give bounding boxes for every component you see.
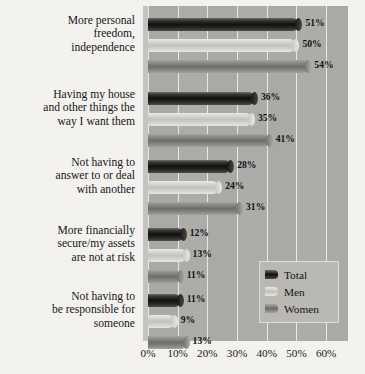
bar-value-label: 36%	[261, 91, 280, 102]
x-tick-40: 40%	[257, 347, 278, 359]
category-label-line: freedom,	[0, 27, 135, 40]
bar-end-cap	[295, 18, 302, 31]
bar-end-cap	[248, 113, 255, 126]
category-label-column: More personalfreedom,independenceHaving …	[0, 0, 140, 341]
category-label-line: with another	[0, 183, 135, 196]
bar-men[interactable]	[148, 181, 219, 194]
bar-value-label: 13%	[193, 248, 212, 259]
x-tick-30: 30%	[227, 347, 248, 359]
bar-value-label: 12%	[190, 227, 209, 238]
gridline-0	[148, 6, 149, 341]
bar-row: 51%	[143, 18, 348, 31]
bar-body	[148, 249, 187, 262]
bar-men[interactable]	[148, 249, 187, 262]
bar-value-label: 11%	[187, 269, 206, 280]
x-axis-tick-labels: 0%10%20%30%40%50%60%	[143, 347, 348, 365]
category-label-line: More personal	[0, 14, 135, 27]
category-label: Having my houseand other things theway I…	[0, 88, 135, 128]
legend-swatch-total	[265, 270, 278, 279]
bar-body	[148, 160, 231, 173]
bar-row: 36%	[143, 92, 348, 105]
category-label-line: independence	[0, 41, 135, 54]
bar-men[interactable]	[148, 315, 175, 328]
bar-value-label: 54%	[314, 59, 333, 70]
bar-body	[148, 39, 296, 52]
bar-end-cap	[171, 315, 178, 328]
bar-end-cap	[304, 60, 311, 73]
bar-body	[148, 202, 240, 215]
bar-value-label: 9%	[181, 314, 195, 325]
bar-end-cap	[236, 202, 243, 215]
x-tick-20: 20%	[197, 347, 218, 359]
bar-total[interactable]	[148, 160, 231, 173]
legend-item-women[interactable]: Women	[265, 300, 333, 317]
bar-row: 24%	[143, 181, 348, 194]
bar-value-label: 50%	[302, 38, 321, 49]
bar-value-label: 41%	[276, 133, 295, 144]
bar-end-cap	[251, 92, 258, 105]
bar-body	[148, 228, 184, 241]
legend-swatch-women	[265, 304, 278, 313]
bar-body	[148, 18, 299, 31]
category-label: Not having toanswer to or dealwith anoth…	[0, 156, 135, 196]
legend-item-total[interactable]: Total	[265, 266, 333, 283]
bar-body	[148, 181, 219, 194]
category-label-line: way I want them	[0, 115, 135, 128]
x-tick-0: 0%	[141, 347, 156, 359]
legend-swatch-men	[265, 287, 278, 296]
category-label-line: Not having to	[0, 290, 135, 303]
bar-men[interactable]	[148, 39, 296, 52]
category-label-line: answer to or deal	[0, 169, 135, 182]
category-label: Not having tobe responsible forsomeone	[0, 290, 135, 330]
bar-body	[148, 270, 181, 283]
bar-row: 35%	[143, 113, 348, 126]
x-tick-50: 50%	[286, 347, 307, 359]
bar-row: 41%	[143, 134, 348, 147]
category-label-line: Not having to	[0, 156, 135, 169]
legend-label: Women	[284, 303, 319, 315]
bar-total[interactable]	[148, 92, 255, 105]
bar-women[interactable]	[148, 134, 270, 147]
bar-row: 50%	[143, 39, 348, 52]
bar-value-label: 31%	[246, 201, 265, 212]
bar-total[interactable]	[148, 294, 181, 307]
bar-value-label: 11%	[187, 293, 206, 304]
category-label-line: are not at risk	[0, 251, 135, 264]
bar-men[interactable]	[148, 113, 252, 126]
legend-item-men[interactable]: Men	[265, 283, 333, 300]
legend-label: Men	[284, 286, 305, 298]
bar-value-label: 28%	[237, 159, 256, 170]
bar-value-label: 51%	[305, 17, 324, 28]
bar-row: 28%	[143, 160, 348, 173]
gridline-20	[207, 6, 208, 341]
bar-body	[148, 113, 252, 126]
bar-end-cap	[292, 39, 299, 52]
bar-total[interactable]	[148, 18, 299, 31]
bar-row: 31%	[143, 202, 348, 215]
bar-end-cap	[266, 134, 273, 147]
bar-end-cap	[183, 249, 190, 262]
bar-chart: More personalfreedom,independenceHaving …	[0, 0, 365, 374]
bar-end-cap	[177, 270, 184, 283]
bar-women[interactable]	[148, 270, 181, 283]
plot-area: 51%50%54%36%35%41%28%24%31%12%13%11%11%9…	[143, 6, 348, 341]
x-tick-10: 10%	[167, 347, 188, 359]
grid-band	[178, 6, 208, 341]
bar-row: 12%	[143, 228, 348, 241]
bar-end-cap	[177, 294, 184, 307]
legend-label: Total	[284, 269, 307, 281]
category-label-line: and other things the	[0, 101, 135, 114]
category-label-line: someone	[0, 317, 135, 330]
chart-legend: TotalMenWomen	[259, 261, 339, 323]
bar-body	[148, 134, 270, 147]
bar-women[interactable]	[148, 60, 308, 73]
category-label-line: Having my house	[0, 88, 135, 101]
category-label-line: secure/my assets	[0, 237, 135, 250]
bar-row: 54%	[143, 60, 348, 73]
bar-total[interactable]	[148, 228, 184, 241]
bar-end-cap	[180, 228, 187, 241]
bar-value-label: 35%	[258, 112, 277, 123]
bar-women[interactable]	[148, 202, 240, 215]
bar-end-cap	[215, 181, 222, 194]
bar-body	[148, 92, 255, 105]
